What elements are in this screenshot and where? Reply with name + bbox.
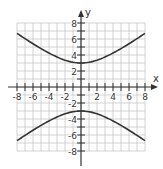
y-tick-label: 4 <box>71 51 77 61</box>
hyperbola-graph: -8-6-4-224688642-2-4-6-8 x y <box>0 0 163 169</box>
y-tick-label: -6 <box>68 131 77 141</box>
y-axis-label: y <box>85 7 91 18</box>
x-tick-label: -6 <box>29 92 38 102</box>
y-tick-label: 2 <box>71 67 77 77</box>
x-tick-label: 2 <box>94 92 100 102</box>
y-tick-label: 6 <box>71 35 77 45</box>
y-tick-label: -8 <box>68 147 77 157</box>
y-tick-label: -4 <box>68 115 77 125</box>
x-tick-label: 8 <box>142 92 148 102</box>
x-tick-label: 6 <box>126 92 132 102</box>
y-tick-label: -2 <box>68 99 77 109</box>
x-axis-arrow-icon <box>151 84 158 90</box>
y-tick-label: 8 <box>71 19 77 29</box>
x-tick-label: 4 <box>110 92 116 102</box>
y-axis-arrow-icon <box>78 10 84 17</box>
x-tick-label: -4 <box>45 92 54 102</box>
x-axis-label: x <box>153 73 159 84</box>
x-tick-label: -8 <box>13 92 22 102</box>
